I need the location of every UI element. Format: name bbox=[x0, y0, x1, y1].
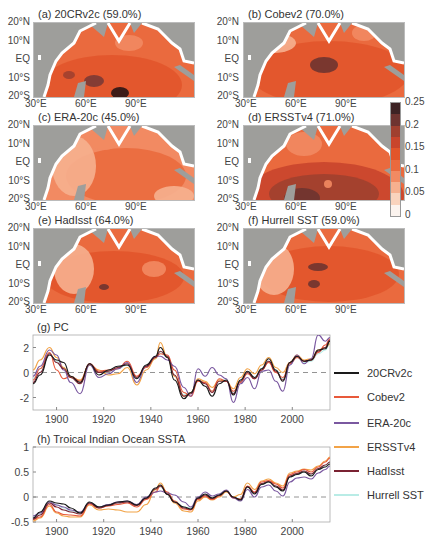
legend-label: Cobev2 bbox=[367, 391, 405, 403]
svg-text:1900: 1900 bbox=[45, 525, 69, 537]
lat-tick: 10°N bbox=[211, 138, 239, 149]
map-panel-e bbox=[33, 228, 195, 304]
legend-item: 20CRv2c bbox=[334, 366, 412, 380]
svg-text:1960: 1960 bbox=[186, 413, 210, 425]
lon-tick: 90°E bbox=[125, 201, 147, 212]
svg-text:0.5: 0.5 bbox=[14, 466, 29, 478]
legend-line-icon bbox=[334, 372, 359, 374]
lon-tick: 30°E bbox=[25, 304, 47, 315]
lat-tick: 10°S bbox=[2, 175, 30, 186]
lat-tick: 20°N bbox=[211, 16, 239, 27]
lon-tick: 60°E bbox=[75, 304, 97, 315]
lat-tick: EQ bbox=[2, 53, 30, 64]
lon-tick: 30°E bbox=[25, 98, 47, 109]
lat-tick: 10°S bbox=[211, 175, 239, 186]
lat-tick: 10°N bbox=[211, 35, 239, 46]
map-title-a: (a) 20CRv2c (59.0%) bbox=[38, 8, 141, 20]
legend-label: ERSSTv4 bbox=[367, 441, 415, 453]
svg-text:1940: 1940 bbox=[139, 413, 163, 425]
lat-tick: 20°N bbox=[2, 16, 30, 27]
lat-tick: EQ bbox=[2, 156, 30, 167]
svg-text:0: 0 bbox=[23, 491, 29, 503]
lat-tick: 10°N bbox=[2, 138, 30, 149]
lat-tick: 10°S bbox=[2, 278, 30, 289]
lat-tick: 10°N bbox=[2, 241, 30, 252]
map-panel-c bbox=[33, 125, 195, 201]
ssta-line-chart: 19001920194019601980200010.50-0.5 bbox=[0, 440, 335, 542]
svg-text:-0.5: -0.5 bbox=[11, 516, 29, 528]
legend-item: ERSSTv4 bbox=[334, 440, 415, 454]
legend-label: HadIsst bbox=[367, 465, 404, 477]
lat-tick: 10°S bbox=[211, 278, 239, 289]
map-title-c: (c) ERA-20c (45.0%) bbox=[38, 111, 139, 123]
lat-tick: 10°S bbox=[2, 72, 30, 83]
svg-text:0: 0 bbox=[23, 367, 29, 379]
colorbar-tick: 0 bbox=[405, 209, 411, 220]
map-panel-d bbox=[243, 125, 405, 201]
legend-line-icon bbox=[334, 446, 359, 448]
lon-tick: 90°E bbox=[335, 304, 357, 315]
map-title-f: (f) Hurrell SST (59.0%) bbox=[248, 214, 360, 226]
lon-tick: 90°E bbox=[335, 98, 357, 109]
lat-tick: 10°S bbox=[211, 72, 239, 83]
svg-text:1980: 1980 bbox=[233, 413, 257, 425]
lat-tick: 10°N bbox=[211, 241, 239, 252]
legend-label: Hurrell SST bbox=[367, 489, 424, 501]
lon-tick: 60°E bbox=[285, 98, 307, 109]
svg-text:-2: -2 bbox=[20, 392, 29, 404]
lon-tick: 60°E bbox=[285, 304, 307, 315]
legend-line-icon bbox=[334, 396, 359, 398]
map-panel-f bbox=[243, 228, 405, 304]
lat-tick: EQ bbox=[211, 53, 239, 64]
lon-tick: 60°E bbox=[75, 98, 97, 109]
lat-tick: EQ bbox=[211, 156, 239, 167]
colorbar-tick: 0.05 bbox=[405, 186, 424, 197]
map-title-b: (b) Cobev2 (70.0%) bbox=[248, 8, 344, 20]
lon-tick: 30°E bbox=[235, 201, 257, 212]
svg-text:2: 2 bbox=[23, 342, 29, 354]
map-title-e: (e) HadIsst (64.0%) bbox=[38, 214, 133, 226]
lon-tick: 30°E bbox=[25, 201, 47, 212]
svg-text:1900: 1900 bbox=[45, 413, 69, 425]
svg-text:1940: 1940 bbox=[139, 525, 163, 537]
svg-text:1960: 1960 bbox=[186, 525, 210, 537]
lat-tick: 20°N bbox=[211, 119, 239, 130]
legend-line-icon bbox=[334, 422, 359, 424]
lon-tick: 90°E bbox=[125, 304, 147, 315]
lat-tick: EQ bbox=[2, 259, 30, 270]
legend-label: 20CRv2c bbox=[367, 367, 412, 379]
svg-text:2000: 2000 bbox=[281, 413, 305, 425]
svg-text:1920: 1920 bbox=[92, 413, 116, 425]
legend-label: ERA-20c bbox=[367, 417, 411, 429]
svg-text:2000: 2000 bbox=[281, 525, 305, 537]
legend-item: Hurrell SST bbox=[334, 488, 424, 502]
lat-tick: 20°N bbox=[2, 119, 30, 130]
lat-tick: EQ bbox=[211, 259, 239, 270]
svg-text:1980: 1980 bbox=[233, 525, 257, 537]
svg-text:1920: 1920 bbox=[92, 525, 116, 537]
legend-item: Cobev2 bbox=[334, 390, 405, 404]
legend-item: ERA-20c bbox=[334, 416, 411, 430]
colorbar-tick: 0.1 bbox=[405, 164, 419, 175]
colorbar-tick: 0.25 bbox=[405, 96, 424, 107]
lon-tick: 60°E bbox=[75, 201, 97, 212]
lon-tick: 90°E bbox=[335, 201, 357, 212]
legend-line-icon bbox=[334, 494, 359, 496]
legend-item: HadIsst bbox=[334, 464, 404, 478]
pc-line-chart: 19001920194019601980200020-2 bbox=[0, 330, 335, 435]
map-title-d: (d) ERSSTv4 (71.0%) bbox=[248, 111, 354, 123]
colorbar-tick: 0.15 bbox=[405, 141, 424, 152]
colorbar-tick: 0.2 bbox=[405, 119, 419, 130]
legend-line-icon bbox=[334, 470, 359, 472]
lon-tick: 60°E bbox=[285, 201, 307, 212]
lon-tick: 90°E bbox=[125, 98, 147, 109]
map-panel-b bbox=[243, 22, 405, 98]
lon-tick: 30°E bbox=[235, 304, 257, 315]
lon-tick: 30°E bbox=[235, 98, 257, 109]
colorbar bbox=[390, 102, 401, 217]
lat-tick: 20°N bbox=[211, 222, 239, 233]
svg-text:1: 1 bbox=[23, 441, 29, 453]
lat-tick: 20°N bbox=[2, 222, 30, 233]
map-panel-a bbox=[33, 22, 195, 98]
lat-tick: 10°N bbox=[2, 35, 30, 46]
